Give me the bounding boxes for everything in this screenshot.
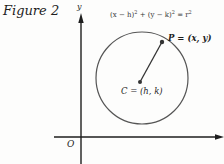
y-axis-arrow-icon bbox=[78, 13, 83, 23]
circle-equation-figure: Figure 2 y O (x − h)2 + (y − k)2 = r2 P … bbox=[0, 0, 224, 164]
center-point bbox=[138, 80, 142, 84]
y-axis-label: y bbox=[77, 3, 82, 11]
circle-equation: (x − h)2 + (y − k)2 = r2 bbox=[110, 10, 192, 19]
figure-caption: Figure 2 bbox=[3, 4, 59, 17]
radius-segment bbox=[140, 42, 162, 82]
eq-term-x: (x − h) bbox=[110, 11, 134, 19]
eq-exp-r: 2 bbox=[189, 9, 192, 15]
eq-term-y: (y − k) bbox=[148, 11, 172, 19]
origin-label: O bbox=[67, 140, 74, 149]
figure-canvas bbox=[0, 0, 224, 164]
center-point-label: C = (h, k) bbox=[121, 87, 163, 96]
point-p bbox=[160, 40, 164, 44]
eq-plus: + bbox=[137, 11, 147, 19]
eq-equals-r: = r bbox=[175, 11, 189, 19]
x-axis-arrow-icon bbox=[215, 134, 224, 139]
point-p-label: P = (x, y) bbox=[168, 34, 211, 43]
